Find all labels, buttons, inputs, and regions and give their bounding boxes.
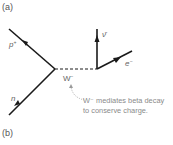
arrow-icon: [95, 35, 100, 42]
leader-arrow-icon: [69, 84, 73, 88]
proton-label: p+: [8, 39, 16, 49]
neutron-label: n: [11, 94, 16, 103]
antineutrino-line: [95, 29, 100, 69]
w-boson-label: W−: [63, 73, 74, 83]
annotation-line-1: W⁻ mediates beta decay: [83, 96, 165, 105]
annotation-line-2: to conserve charge.: [83, 106, 148, 115]
feynman-diagram: p+ n W− ν̄ e− W⁻ mediates beta decay to …: [0, 0, 173, 145]
panel-label-b: (b): [2, 128, 13, 138]
neutron-line: [9, 69, 55, 115]
antineutrino-label: ν̄: [102, 30, 108, 39]
electron-label: e−: [125, 58, 132, 68]
proton-line: [9, 29, 55, 69]
